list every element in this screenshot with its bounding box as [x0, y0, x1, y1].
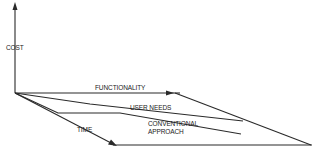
cost-label: COST: [6, 44, 24, 51]
user-needs-curve: [15, 93, 243, 121]
time-arrow-icon: [108, 140, 117, 147]
cost-arrow-icon: [13, 2, 18, 10]
functionality-arrow-icon: [166, 91, 174, 96]
user-needs-label: USER NEEDS: [130, 104, 171, 111]
time-label: TIME: [77, 126, 92, 133]
approach-label: APPROACH: [148, 128, 184, 135]
plane-right-edge: [175, 93, 311, 145]
conventional-approach-curve: [15, 93, 241, 134]
functionality-label: FUNCTIONALITY: [95, 84, 145, 91]
conventional-label: CONVENTIONAL: [148, 120, 198, 127]
